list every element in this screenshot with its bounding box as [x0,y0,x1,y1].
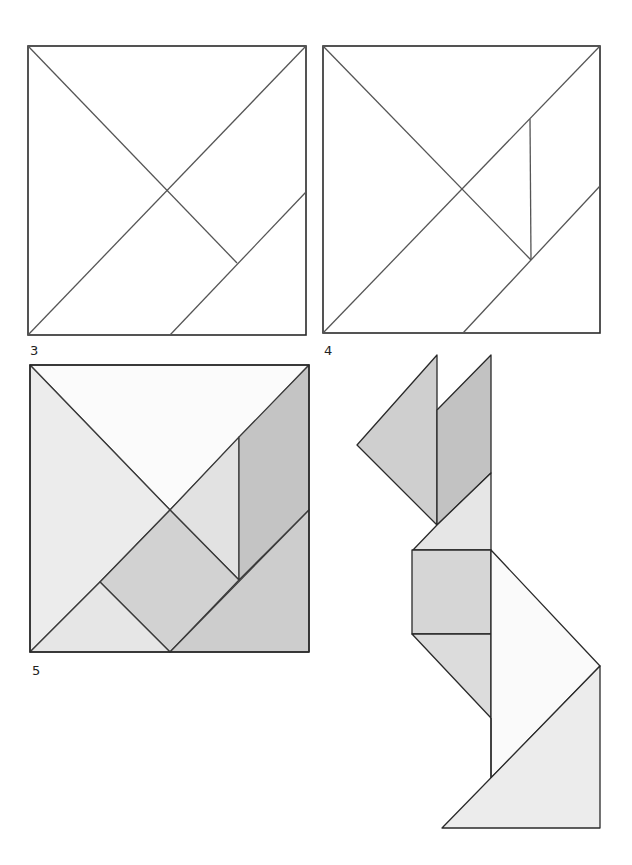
tangram-diagram [0,0,632,865]
fig4-diagonal-a [323,46,531,260]
figure-5-label: 5 [32,663,40,678]
rabbit-figure [357,355,600,828]
fig3-cut [170,192,306,335]
fig4-cut [463,186,600,333]
rabbit-left-ear [357,355,437,525]
figure-4 [323,46,600,333]
figure-4-label: 4 [324,343,332,358]
figure-3 [28,46,306,335]
figure-3-label: 3 [30,343,38,358]
fig3-diagonal-a [28,46,237,263]
figure-5 [30,365,309,652]
rabbit-small-triangle [412,634,491,718]
fig4-vertical-cut [530,119,531,260]
rabbit-square [412,550,491,634]
